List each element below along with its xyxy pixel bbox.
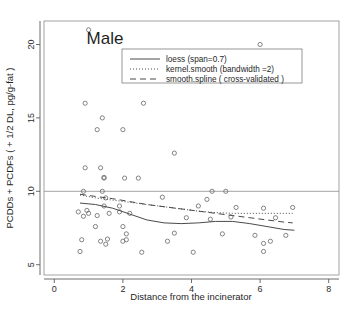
data-point [80,238,84,242]
data-point [291,205,295,209]
y-tick-label: 5 [26,262,36,267]
data-point [258,42,262,46]
data-point [253,233,257,237]
data-point [117,204,121,208]
y-axis-title: PCDDs + PCDFs ( + 1/2 DL, pg/g-fat ) [4,67,15,228]
data-point [124,232,128,236]
data-point [261,206,265,210]
x-tick-label: 6 [258,284,263,294]
data-point [284,233,288,237]
y-tick-label: 10 [26,186,36,196]
data-point [83,101,87,105]
data-point [123,176,127,180]
data-point [105,237,109,241]
data-point [141,101,145,105]
data-point [107,211,111,215]
curve-solid [80,203,294,230]
y-tick-label: 15 [26,113,36,123]
data-point [95,213,99,217]
x-tick-label: 2 [120,284,125,294]
x-tick-label: 0 [52,284,57,294]
data-point [196,204,200,208]
data-point [160,195,164,199]
data-point [136,176,140,180]
plot-title: Male [87,29,124,48]
x-tick-label: 8 [326,284,331,294]
data-point [78,249,82,253]
data-point [261,249,265,253]
data-point [81,214,85,218]
data-point [268,239,272,243]
data-point [191,250,195,254]
data-point [205,197,209,201]
data-point [104,242,108,246]
data-point [93,224,97,228]
legend: loess (span=0.7)kernel.smooth (bandwidth… [122,49,302,84]
legend-label: smooth.spline ( cross-validated ) [166,75,284,84]
plot-canvas: 5101520 02468 Male Distance from the inc… [0,0,355,312]
scatter-plot-figure: 5101520 02468 Male Distance from the inc… [0,0,355,312]
data-point [99,239,103,243]
data-point [100,116,104,120]
data-point [172,151,176,155]
x-axis-title: Distance from the incinerator [130,291,251,302]
data-point [83,166,87,170]
data-point [220,232,224,236]
data-point [184,216,188,220]
data-point [121,128,125,132]
smoother-curves [80,194,294,230]
curve-dotted [80,195,293,213]
legend-label: kernel.smooth (bandwidth =2) [166,65,274,74]
data-point [208,217,212,221]
data-point [261,241,265,245]
data-point [121,224,125,228]
y-axis-ticks: 5101520 [26,39,40,267]
data-point [273,216,277,220]
legend-label: loess (span=0.7) [166,55,227,64]
data-point [172,231,176,235]
y-tick-label: 20 [26,39,36,49]
data-point [140,250,144,254]
data-point [234,205,238,209]
data-point [99,166,103,170]
data-point [95,128,99,132]
data-point [165,239,169,243]
data-point [76,210,80,214]
